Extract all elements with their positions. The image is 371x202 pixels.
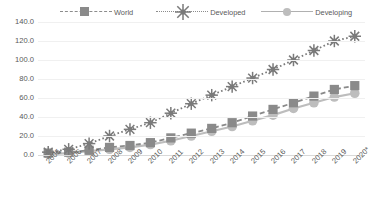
data-point-star — [144, 117, 156, 129]
y-tick-label: 20.0 — [0, 132, 34, 140]
gridline — [38, 60, 365, 61]
legend-item-developed[interactable]: Developed — [156, 4, 261, 20]
legend-label-developing: Developing — [315, 8, 352, 17]
series-line — [48, 93, 355, 154]
data-point-square — [166, 133, 175, 142]
data-point-square — [207, 124, 216, 133]
data-point-star — [267, 63, 279, 75]
legend-item-developing[interactable]: Developing — [261, 4, 368, 20]
legend-label-world: World — [114, 8, 133, 17]
y-tick-label: 100.0 — [0, 56, 34, 64]
chart-legend: World Developed — [60, 4, 368, 20]
x-axis-labels: 2005200620072008200920102011201220132014… — [38, 155, 365, 202]
y-tick-label: 120.0 — [0, 37, 34, 45]
plot-area — [38, 22, 365, 155]
data-point-star — [83, 137, 95, 149]
gridline — [38, 136, 365, 137]
data-point-square — [309, 92, 318, 101]
y-tick-label: 40.0 — [0, 113, 34, 121]
data-point-square — [289, 98, 298, 107]
data-point-square — [125, 141, 134, 150]
data-point-star — [226, 80, 238, 92]
legend-item-world[interactable]: World — [60, 4, 156, 20]
chart-container: World Developed — [0, 0, 371, 202]
data-point-square — [330, 85, 339, 94]
data-point-star — [124, 123, 136, 135]
data-point-star — [308, 44, 320, 56]
legend-swatch-developing — [261, 5, 313, 19]
y-tick-label: 140.0 — [0, 18, 34, 26]
y-tick-label: 0.0 — [0, 151, 34, 159]
gridline — [38, 98, 365, 99]
legend-label-developed: Developed — [210, 8, 245, 17]
gridline — [38, 117, 365, 118]
y-axis-labels: 140.0120.0100.080.060.040.020.00.0 — [0, 0, 38, 202]
data-point-star — [185, 98, 197, 110]
gridline — [38, 41, 365, 42]
square-marker-icon — [80, 7, 89, 16]
legend-swatch-developed — [156, 5, 208, 19]
gridline — [38, 22, 365, 23]
y-tick-label: 80.0 — [0, 75, 34, 83]
series-line — [48, 36, 355, 152]
circle-marker-icon — [283, 7, 291, 16]
data-point-square — [146, 138, 155, 147]
data-point-square — [228, 118, 237, 127]
y-tick-label: 60.0 — [0, 94, 34, 102]
data-point-square — [268, 105, 277, 114]
data-point-star — [206, 89, 218, 101]
legend-swatch-world — [60, 5, 112, 19]
data-point-square — [350, 81, 359, 90]
gridline — [38, 79, 365, 80]
